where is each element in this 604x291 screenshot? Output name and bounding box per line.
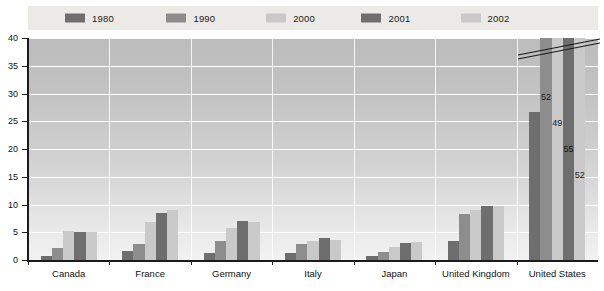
bar-germany-1990 [215,241,226,260]
gridline-horizontal [28,177,598,178]
chart-legend: 19801990200020012002 [28,6,598,30]
bar-germany-2000 [226,228,237,260]
bar-japan-2002 [411,242,422,260]
x-axis-category-label: United Kingdom [442,268,510,279]
bar-canada-2001 [74,232,85,260]
y-tick-mark [22,205,27,206]
y-tick-mark [22,177,27,178]
bar-united-kingdom-2000 [470,210,481,260]
y-axis-tick-label: 30 [0,89,18,99]
y-axis-tick-label: 35 [0,61,18,71]
legend-item-2001[interactable]: 2001 [361,13,410,24]
x-tick-mark [28,261,29,265]
gridline-vertical [354,38,355,260]
y-tick-mark [22,121,27,122]
x-tick-mark [109,261,110,265]
gridline-horizontal [28,205,598,206]
y-tick-mark [22,260,27,261]
x-axis-category-label: France [135,268,165,279]
bar-united-states-1980 [529,112,540,260]
y-tick-mark [22,94,27,95]
x-axis-category-label: Germany [212,268,251,279]
legend-item-1990[interactable]: 1990 [166,13,215,24]
x-axis-line [27,260,598,262]
bar-value-label: 52 [575,170,585,180]
bar-value-label: 55 [563,144,573,154]
gridline-horizontal [28,121,598,122]
bar-united-kingdom-1980 [448,241,459,260]
x-tick-mark [354,261,355,265]
gridline-vertical [272,38,273,260]
y-tick-mark [22,232,27,233]
bar-france-1990 [133,244,144,260]
bar-canada-2002 [86,232,97,260]
bar-united-kingdom-2001 [481,206,492,260]
legend-swatch-icon [266,14,286,23]
legend-label: 1990 [193,13,215,24]
x-axis-category-label: Canada [52,268,85,279]
bar-united-states-2002 [574,38,585,260]
legend-item-2000[interactable]: 2000 [266,13,315,24]
bar-france-2001 [156,213,167,260]
gridline-horizontal [28,232,598,233]
bar-italy-2001 [319,238,330,260]
y-axis-tick-label: 20 [0,144,18,154]
y-tick-mark [22,66,27,67]
legend-swatch-icon [361,14,381,23]
gridline-horizontal [28,94,598,95]
gridline-horizontal [28,149,598,150]
bar-germany-2001 [237,221,248,260]
y-tick-mark [22,149,27,150]
x-tick-mark [435,261,436,265]
bar-japan-2000 [389,247,400,260]
bar-canada-2000 [63,231,74,260]
bar-italy-1980 [285,253,296,260]
bar-value-label: 49 [552,118,562,128]
x-axis-category-label: Italy [304,268,321,279]
x-tick-mark [272,261,273,265]
y-axis-tick-label: 25 [0,116,18,126]
bar-united-states-2000 [552,38,563,260]
y-axis-tick-label: 10 [0,200,18,210]
legend-label: 2001 [388,13,410,24]
legend-swatch-icon [461,14,481,23]
gridline-horizontal [28,38,598,39]
legend-swatch-icon [166,14,186,23]
bar-germany-2002 [248,222,259,260]
bar-japan-2001 [400,243,411,260]
legend-swatch-icon [65,14,85,23]
bar-united-kingdom-1990 [459,214,470,260]
legend-label: 2002 [488,13,510,24]
gridline-vertical [517,38,518,260]
gridline-horizontal [28,66,598,67]
bar-germany-1980 [204,253,215,260]
gridline-vertical [435,38,436,260]
y-tick-mark [22,38,27,39]
legend-label: 2000 [293,13,315,24]
bar-france-2000 [145,222,156,260]
bar-italy-2002 [330,240,341,260]
bar-france-2002 [167,210,178,261]
y-axis-tick-label: 40 [0,33,18,43]
gridline-vertical [109,38,110,260]
legend-item-2002[interactable]: 2002 [461,13,510,24]
x-axis-category-label: Japan [381,268,407,279]
x-tick-mark [517,261,518,265]
gridline-vertical [191,38,192,260]
y-axis-tick-label: 15 [0,172,18,182]
bar-italy-2000 [307,241,318,260]
x-axis-category-label: United States [529,268,586,279]
bar-united-kingdom-2002 [493,206,504,260]
x-tick-mark [191,261,192,265]
bar-japan-1990 [378,252,389,260]
bar-value-label: 52 [541,92,551,102]
bar-united-states-1990 [540,38,551,260]
bar-italy-1990 [296,244,307,260]
legend-item-1980[interactable]: 1980 [65,13,114,24]
plot-area [28,38,598,260]
bar-canada-1990 [52,248,63,260]
bar-chart: 19801990200020012002 0510152025303540Can… [0,0,604,291]
y-axis-tick-label: 0 [0,255,18,265]
y-axis-tick-label: 5 [0,227,18,237]
bar-france-1980 [122,251,133,260]
